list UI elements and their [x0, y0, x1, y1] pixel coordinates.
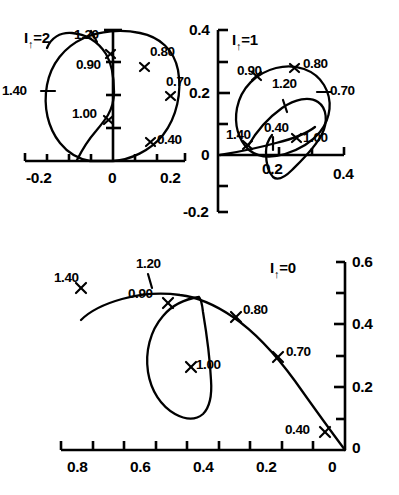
panel-it2-label-040: 0.40 [157, 133, 182, 147]
panel-it1-label-100: 1.00 [303, 131, 328, 145]
panel-it1-yticklabel-0: 0 [201, 147, 209, 163]
marker-0.80 [140, 63, 149, 71]
panel-it0-title: I↑=0 [270, 260, 296, 278]
panel-it1-yticklabel-04: 0.4 [189, 22, 210, 38]
panel-it2-label-100: 1.00 [72, 107, 97, 121]
panel-it0-yticklabel-02: 0.2 [352, 379, 373, 395]
panel-it0-label-090: 0.90 [128, 287, 153, 301]
panel-it1-label-070: 0.70 [330, 84, 355, 98]
panel-it2-title: I↑=2 [24, 30, 50, 48]
panel-it1-xticklabel-02: 0.2 [262, 161, 283, 177]
panel-it2-xticklabel-2: 0.2 [160, 170, 181, 186]
panel-it0-title-eq: =0 [279, 259, 296, 276]
panel-it2-label-090: 0.90 [76, 58, 101, 72]
panel-it2-label-080: 0.80 [150, 45, 175, 59]
panel-it0-xticklabel-02: 0.2 [256, 459, 277, 475]
panel-it1-title-arrow: ↑ [236, 41, 241, 52]
panel-it1-title: I↑=1 [232, 32, 258, 50]
marker-0.70 [166, 92, 175, 100]
panel-it2-label-120: 1.20 [74, 28, 99, 42]
panel-it0-label-070: 0.70 [286, 345, 311, 359]
panel-it0-xticklabel-0: 0 [328, 459, 336, 475]
panel-it1-label-140: 1.40 [226, 128, 251, 142]
marker-0.40 [320, 427, 330, 437]
panel-it2-label-070: 0.70 [166, 75, 191, 89]
panel-it2-xticklabel-1: 0 [108, 170, 116, 186]
panel-it0-label-080: 0.80 [243, 303, 268, 317]
panel-it0-label-100: 1.00 [196, 358, 221, 372]
panel-it0-xticklabel-06: 0.6 [130, 459, 151, 475]
panel-it0-xticklabel-04: 0.4 [193, 459, 214, 475]
panel-it1-yticklabel-neg02: -0.2 [183, 204, 209, 220]
panel-it0-label-140: 1.40 [54, 271, 79, 285]
panel-it1-label-080: 0.80 [303, 57, 328, 71]
panel-it1-yticklabel-02: 0.2 [189, 85, 210, 101]
panel-it0-label-040: 0.40 [285, 423, 310, 437]
marker-1.00 [186, 362, 196, 372]
panel-it0-title-arrow: ↑ [274, 269, 279, 280]
panel-it0-yticklabel-0: 0 [352, 440, 360, 456]
marker-0.40 [146, 138, 155, 146]
panel-it0-yticklabel-06: 0.6 [352, 254, 373, 270]
panel-it1-label-040: 0.40 [264, 121, 289, 135]
panel-it0-yticklabel-04: 0.4 [352, 316, 373, 332]
panel-it2-title-eq: =2 [33, 29, 50, 46]
figure-canvas [0, 0, 399, 495]
panel-it2-title-arrow: ↑ [28, 39, 33, 50]
panel-it1-title-eq: =1 [241, 31, 258, 48]
panel-it1-label-120: 1.20 [272, 77, 297, 91]
panel-it1-xticklabel-04: 0.4 [333, 166, 354, 182]
panel-it2-label-140: 1.40 [2, 84, 27, 98]
marker-0.90 [163, 298, 173, 308]
panel-it2-inner-curve [77, 92, 114, 160]
panel-it0-label-120: 1.20 [136, 257, 161, 271]
panel-it2-xticklabel-0: -0.2 [26, 170, 52, 186]
panel-it0-xticklabel-08: 0.8 [67, 459, 88, 475]
panel-it1-label-090: 0.90 [237, 64, 262, 78]
